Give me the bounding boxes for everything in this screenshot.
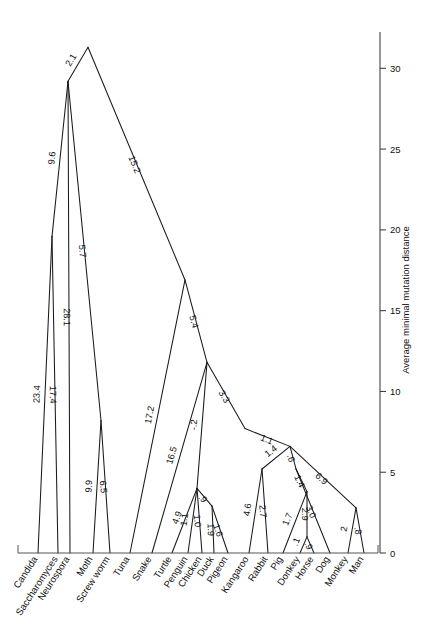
branch-length-label: 4.6 bbox=[242, 503, 254, 517]
branch-length-label: 16.5 bbox=[164, 445, 179, 465]
taxon-label-man: Man bbox=[346, 554, 365, 576]
branch-length-label: 28.1 bbox=[62, 308, 72, 326]
branch-length-label: 17.2 bbox=[143, 405, 156, 425]
y-axis: 051015202530 bbox=[380, 32, 401, 559]
y-axis-tick-label: 10 bbox=[390, 386, 401, 397]
branch-length-label: .8 bbox=[352, 526, 363, 535]
y-axis-tick-label: 0 bbox=[390, 548, 395, 559]
branch-length-label: 17.4 bbox=[48, 386, 58, 404]
branch-length-label: 1.7 bbox=[280, 512, 294, 528]
phylogenetic-tree-figure: 051015202530 2.19.623.417.428.115.25.79.… bbox=[0, 0, 438, 638]
branch-length-label: 5.7 bbox=[77, 244, 88, 258]
branch-length-label: 9.9 bbox=[83, 480, 94, 493]
branch-length-label: 2 bbox=[339, 526, 350, 533]
branch-length-label: 15.2 bbox=[126, 154, 142, 174]
branch-length-label: 1.0 bbox=[192, 514, 203, 528]
tree-canvas: 051015202530 2.19.623.417.428.115.25.79.… bbox=[0, 0, 438, 638]
branch-length-label: 2.7 bbox=[257, 504, 268, 517]
branch-length-label: 23.4 bbox=[31, 385, 42, 403]
branch-length-label: 1.1 bbox=[178, 513, 190, 527]
branch-length-label: 5.4 bbox=[187, 314, 200, 329]
y-axis-tick-label: 5 bbox=[390, 467, 395, 478]
y-axis-title: Average minimal mutation distance bbox=[400, 226, 411, 374]
branch-length-label: -.2 bbox=[188, 419, 199, 430]
taxon-label-snake: Snake bbox=[130, 554, 154, 583]
y-axis-tick-label: 25 bbox=[390, 144, 401, 155]
branch-length-label: .1 bbox=[290, 536, 302, 547]
y-axis-tick-label: 30 bbox=[390, 63, 401, 74]
branch-length-label: 2.1 bbox=[63, 52, 78, 68]
y-axis-tick-label: 20 bbox=[390, 224, 401, 235]
taxon-label-rabbit: Rabbit bbox=[245, 554, 270, 584]
branch-length-label: 9.6 bbox=[46, 151, 57, 165]
branch-length-label: 6.5 bbox=[98, 480, 109, 493]
branch-length-label: 6.9 bbox=[313, 471, 329, 487]
branch-length-label: .6 bbox=[285, 453, 297, 463]
taxon-label-tuna: Tuna bbox=[111, 554, 132, 579]
taxon-labels: CandidaSaccharomycesNeurosporaMothScrew … bbox=[11, 554, 366, 618]
y-axis-tick-label: 15 bbox=[390, 305, 401, 316]
baseline bbox=[18, 545, 378, 553]
